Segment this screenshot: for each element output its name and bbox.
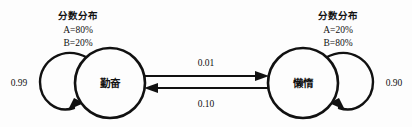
- distribution-line-a-diligent: A=80%: [63, 25, 93, 35]
- transition-probability-lazy-to-diligent: 0.10: [198, 99, 215, 109]
- distribution-annotation-lazy: 分数分布 A=20% B=80%: [318, 10, 358, 48]
- distribution-title-diligent: 分数分布: [58, 10, 98, 21]
- state-label-lazy: 懒惰: [293, 77, 314, 89]
- state-node-lazy[interactable]: 懒惰: [268, 48, 338, 118]
- transition-probability-diligent-to-lazy: 0.01: [198, 58, 215, 68]
- distribution-line-b-diligent: B=20%: [63, 38, 92, 48]
- transition-diligent-to-lazy: 0.01: [145, 58, 269, 81]
- self-loop-probability-lazy: 0.90: [386, 78, 403, 88]
- distribution-line-b-lazy: B=80%: [323, 38, 352, 48]
- distribution-line-a-lazy: A=20%: [323, 25, 353, 35]
- markov-chain-diagram: 分数分布 A=80% B=20% 分数分布 A=20% B=80% 0.99 0…: [0, 0, 412, 127]
- state-node-diligent[interactable]: 勤奋: [75, 48, 145, 118]
- transition-lazy-to-diligent: 0.10: [144, 83, 268, 109]
- distribution-title-lazy: 分数分布: [318, 10, 358, 21]
- diagram-canvas: 分数分布 A=80% B=20% 分数分布 A=20% B=80% 0.99 0…: [0, 0, 412, 127]
- distribution-annotation-diligent: 分数分布 A=80% B=20%: [58, 10, 98, 48]
- state-label-diligent: 勤奋: [100, 77, 121, 89]
- self-loop-probability-diligent: 0.99: [11, 78, 28, 88]
